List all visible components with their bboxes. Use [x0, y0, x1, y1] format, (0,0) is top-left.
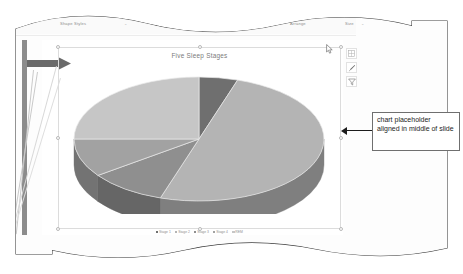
resize-handle-top-center[interactable] — [198, 45, 202, 49]
chevron-down-icon[interactable]: ⌄ — [124, 22, 127, 26]
legend-item: REM — [232, 230, 243, 234]
pie-chart[interactable] — [70, 64, 328, 214]
screenshot-root: Shape Styles ⌄ WordArt Styles ⌄ Accessib… — [0, 0, 463, 274]
resize-handle-middle-left[interactable] — [56, 136, 60, 140]
chevron-down-icon[interactable]: ⌄ — [361, 22, 364, 26]
legend-item: Stage 3 — [194, 230, 209, 234]
callout-leader-line — [345, 130, 373, 131]
annotation-callout: chart placeholder aligned in middle of s… — [372, 112, 460, 151]
ribbon-divider — [16, 35, 356, 36]
ribbon-group-shape-styles[interactable]: Shape Styles — [60, 21, 86, 26]
callout-arrow-head-icon — [341, 127, 347, 135]
legend-swatch — [156, 231, 158, 233]
chart-side-buttons — [346, 48, 359, 90]
chart-styles-button[interactable] — [346, 62, 357, 73]
funnel-icon — [348, 78, 356, 86]
ribbon-group-size[interactable]: Size — [345, 21, 354, 26]
resize-handle-top-left[interactable] — [56, 45, 60, 49]
pie-slice[interactable] — [74, 77, 199, 139]
mouse-cursor-icon — [326, 44, 333, 54]
legend-label: Stage 1 — [159, 230, 171, 234]
plus-grid-icon — [348, 50, 355, 57]
resize-handle-top-right[interactable] — [339, 45, 343, 49]
chart-legend: Stage 1Stage 2Stage 3Stage 4REM — [58, 219, 341, 237]
chart-elements-button[interactable] — [346, 48, 357, 59]
legend-label: Stage 3 — [197, 230, 209, 234]
chart-filters-button[interactable] — [346, 76, 357, 87]
legend-label: Stage 4 — [216, 230, 228, 234]
legend-label: Stage 2 — [178, 230, 190, 234]
legend-item: Stage 4 — [213, 230, 228, 234]
resize-handle-middle-right[interactable] — [339, 136, 343, 140]
legend-label: REM — [235, 230, 243, 234]
legend-item: Stage 2 — [175, 230, 190, 234]
paintbrush-icon — [348, 64, 356, 72]
legend-item: Stage 1 — [156, 230, 171, 234]
chart-title: Five Sleep Stages — [58, 52, 341, 59]
pie-chart-svg — [70, 64, 328, 214]
